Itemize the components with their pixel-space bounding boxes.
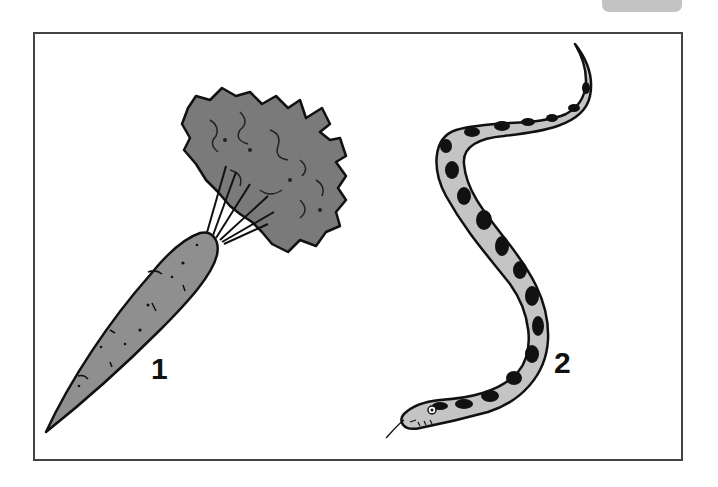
carrot-leaves — [182, 88, 346, 252]
carrot-body — [46, 232, 218, 432]
illustration-canvas — [0, 0, 718, 487]
label-carrot-number: 1 — [151, 352, 168, 386]
label-snake-number: 2 — [554, 346, 571, 380]
snake-tongue — [386, 420, 404, 438]
